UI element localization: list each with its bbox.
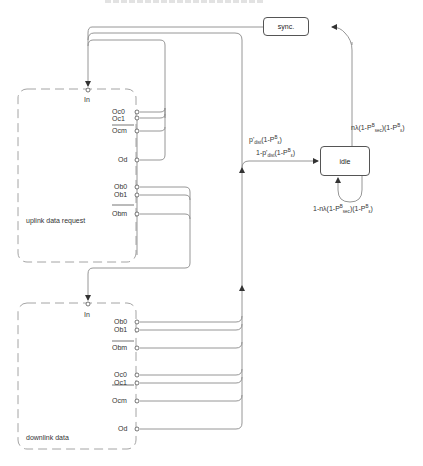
downlink-in-label: In	[84, 311, 90, 319]
downlink-out-oc1: Oc1	[114, 379, 127, 387]
diagram-canvas	[0, 0, 423, 466]
downlink-out-ob1: Ob1	[114, 326, 127, 334]
uplink-out-ocm: Ocm	[112, 127, 127, 135]
transition-idle-self: 1-nλ(1-PBsec)(1-PBε)	[313, 204, 373, 213]
uplink-out-od: Od	[118, 156, 127, 164]
downlink-block-name: downlink data	[26, 434, 69, 442]
uplink-out-ob1: Ob1	[114, 191, 127, 199]
downlink-out-oc0: Oc0	[114, 371, 127, 379]
idle-state[interactable]: idle	[320, 146, 370, 176]
sync-label: sync.	[278, 23, 294, 30]
uplink-out-oc1: Oc1	[112, 115, 125, 123]
idle-label: idle	[340, 158, 351, 165]
uplink-in-label: In	[84, 96, 90, 104]
downlink-out-ocm: Ocm	[112, 397, 127, 405]
downlink-out-od: Od	[118, 425, 127, 433]
downlink-out-ob0: Ob0	[114, 318, 127, 326]
transition-idle-to-sync: nλ(1-PBsec)(1-PBε)	[351, 123, 405, 132]
downlink-in-port	[86, 302, 90, 306]
uplink-out-obm: Obm	[112, 210, 127, 218]
sync-state[interactable]: sync.	[263, 17, 309, 36]
transition-to-idle-b: 1-p'dist(1-PBε)	[256, 148, 295, 157]
uplink-block-name: uplink data request	[26, 217, 85, 225]
transition-to-idle-a: p'dist(1-PBε)	[249, 135, 282, 144]
downlink-out-obm: Obm	[112, 344, 127, 352]
uplink-out-ob0: Ob0	[114, 183, 127, 191]
uplink-in-port	[86, 88, 90, 92]
